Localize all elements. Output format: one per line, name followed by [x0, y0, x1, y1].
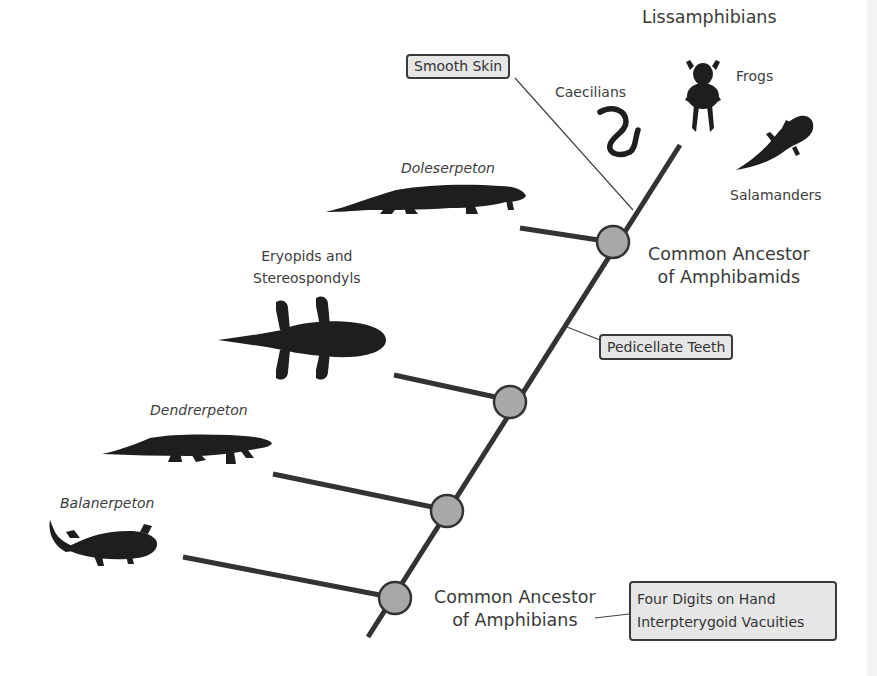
branch-dendrerpeton	[273, 474, 437, 508]
frog-silhouette-icon	[685, 60, 721, 132]
taxon-label-dendrerpeton: Dendrerpeton	[150, 402, 248, 418]
node-dendrerpeton	[431, 495, 463, 527]
node-label-amphibamids-line2: of Amphibamids	[648, 266, 810, 289]
node-amphibians	[379, 582, 411, 614]
node-label-amphibians-line2: of Amphibians	[434, 609, 596, 632]
main-trunk	[368, 145, 680, 637]
branch-eryopids	[394, 375, 500, 398]
branch-doleserpeton	[520, 228, 605, 241]
taxon-label-eryopids-line2: Stereospondyls	[253, 267, 361, 289]
taxon-label-salamanders: Salamanders	[730, 187, 822, 203]
taxon-label-eryopids: Eryopids and Stereospondyls	[253, 245, 361, 289]
pedicellate-teeth-connector	[567, 327, 600, 340]
trait-four-digits-line2: Interpterygoid Vacuities	[637, 611, 829, 634]
taxon-label-eryopids-line1: Eryopids and	[253, 245, 361, 267]
trait-box-four-digits: Four Digits on Hand Interpterygoid Vacui…	[629, 581, 837, 641]
node-label-amphibians: Common Ancestor of Amphibians	[434, 586, 596, 632]
cladogram-tree	[0, 0, 877, 676]
node-eryopids	[494, 386, 526, 418]
trait-box-smooth-skin: Smooth Skin	[406, 54, 510, 79]
salamander-silhouette-icon	[736, 116, 813, 170]
node-amphibamids	[597, 226, 629, 258]
taxon-label-balanerpeton: Balanerpeton	[60, 495, 154, 511]
group-label-lissamphibians: Lissamphibians	[642, 6, 777, 29]
taxon-label-doleserpeton: Doleserpeton	[401, 160, 495, 176]
doleserpeton-silhouette-icon	[326, 185, 526, 214]
eryopid-silhouette-icon	[218, 296, 386, 379]
caecilian-silhouette-icon	[600, 109, 638, 155]
branch-balanerpeton	[183, 557, 385, 596]
node-label-amphibamids-line1: Common Ancestor	[648, 243, 810, 266]
node-label-amphibamids: Common Ancestor of Amphibamids	[648, 243, 810, 289]
four-digits-connector	[595, 614, 629, 618]
trait-box-pedicellate-teeth: Pedicellate Teeth	[599, 334, 733, 360]
trait-four-digits-line1: Four Digits on Hand	[637, 588, 829, 611]
taxon-label-frogs: Frogs	[736, 68, 773, 84]
node-label-amphibians-line1: Common Ancestor	[434, 586, 596, 609]
taxon-label-caecilians: Caecilians	[555, 84, 626, 100]
balanerpeton-silhouette-icon	[50, 520, 158, 566]
dendrerpeton-silhouette-icon	[102, 434, 272, 464]
